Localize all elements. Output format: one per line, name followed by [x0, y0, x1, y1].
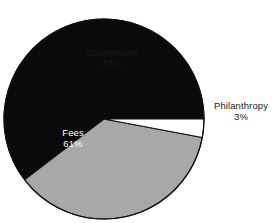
pie-label-fees: Fees 61% — [33, 127, 113, 149]
pie-chart-figure: Government 37% Fees 61% Philanthropy 3% — [0, 0, 277, 223]
pie-label-fees-value: 61% — [33, 138, 113, 149]
pie-label-government: Government 37% — [62, 47, 162, 69]
pie-label-government-name: Government — [62, 47, 162, 58]
pie-label-government-value: 37% — [62, 58, 162, 69]
pie-label-fees-name: Fees — [33, 127, 113, 138]
pie-label-philanthropy-value: 3% — [206, 111, 276, 122]
pie-label-philanthropy-name: Philanthropy — [206, 100, 276, 111]
pie-label-philanthropy: Philanthropy 3% — [206, 100, 276, 122]
